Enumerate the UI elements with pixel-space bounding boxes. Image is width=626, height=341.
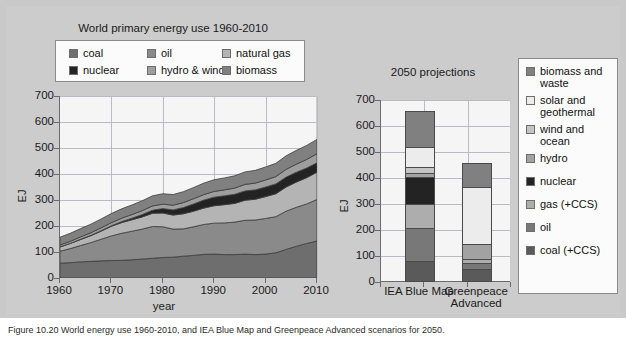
right-chart-plot-area [380,100,510,282]
y-tick [54,122,59,123]
left-chart-legend: coal oil natural gas nuclear hydro & win… [55,40,305,82]
figure-caption: Figure 10.20 World energy use 1960-2010,… [8,325,618,336]
y-tick [54,148,59,149]
figure-panel: World primary energy use 1960-2010 coal … [0,0,626,318]
gas-ccs-swatch-icon [526,200,535,209]
x-tick-label: 1990 [189,284,237,296]
x-tick [213,278,214,283]
legend-label: oil [540,222,551,234]
right-chart: 2050 projections EJ 01002003004005006007… [338,14,620,314]
legend-item-wind-and-ocean[interactable]: wind and ocean [526,124,618,147]
y-tick-label: 700 [22,89,54,101]
y-tick-label: 400 [343,171,375,183]
legend-label: coal (+CCS) [540,245,600,257]
bar-segment-divider [462,187,492,188]
legend-item-biomass[interactable]: biomass [222,65,277,77]
legend-label: coal [83,48,103,60]
hydro-swatch-icon [526,154,535,163]
bar-segment-hydro [462,244,492,258]
bar-segment-divider [405,204,435,205]
coal-ccs-swatch-icon [526,246,535,255]
legend-item-solar-and-geothermal[interactable]: solar and geothermal [526,95,618,118]
x-tick [110,278,111,283]
legend-item-oil[interactable]: oil [147,48,172,60]
legend-item-nuclear[interactable]: nuclear [69,65,119,77]
nuclear-swatch-icon [526,177,535,186]
y-tick-label: 500 [22,141,54,153]
x-tick-label: 2010 [292,284,340,296]
legend-label: wind and ocean [540,124,584,147]
y-tick [54,96,59,97]
solar-and-geothermal-swatch-icon [526,96,535,105]
left-chart-title: World primary energy use 1960-2010 [14,22,332,34]
legend-label: natural gas [236,48,290,60]
x-tick-label: Greenpeace Advanced [436,285,516,309]
bar-segment-divider [405,228,435,229]
nuclear-swatch-icon [69,66,78,75]
hydro-wind-swatch-icon [147,66,156,75]
bar-segment-biomass-and-waste [405,111,435,147]
y-tick-label: 0 [22,271,54,283]
right-chart-title: 2050 projections [348,66,518,78]
legend-label: biomass [236,65,277,77]
x-tick [423,282,424,287]
legend-item-gas-ccs[interactable]: gas (+CCS) [526,199,618,211]
y-tick-label: 600 [343,119,375,131]
biomass-and-waste-swatch-icon [526,67,535,76]
y-tick-label: 700 [343,93,375,105]
wind-and-ocean-swatch-icon [526,125,535,134]
y-tick [375,100,380,101]
x-tick [265,278,266,283]
bar-segment-divider [462,263,492,264]
bar-segment-divider [405,173,435,174]
y-tick [375,178,380,179]
x-tick [59,278,60,283]
legend-item-hydro[interactable]: hydro [526,153,618,165]
legend-item-nuclear[interactable]: nuclear [526,176,618,188]
legend-item-biomass-and-waste[interactable]: biomass and waste [526,66,618,89]
y-tick [54,252,59,253]
legend-item-natural-gas[interactable]: natural gas [222,48,290,60]
bar-segment-nuclear [405,177,435,204]
legend-label: biomass and waste [540,66,602,89]
y-tick [54,200,59,201]
legend-item-hydro-wind[interactable]: hydro & wind [147,65,225,77]
gridline-v [317,96,318,277]
y-tick [375,126,380,127]
y-tick-label: 600 [22,115,54,127]
y-tick-label: 100 [22,245,54,257]
oil-swatch-icon [526,223,535,232]
legend-label: solar and geothermal [540,95,595,118]
x-tick [316,278,317,283]
legend-label: nuclear [540,176,576,188]
legend-item-coal-ccs[interactable]: coal (+CCS) [526,245,618,257]
bar-segment-gas-ccs- [405,204,435,228]
legend-item-oil[interactable]: oil [526,222,618,234]
y-tick [54,226,59,227]
bar-segment-biomass-and-waste [462,163,492,187]
gridline-h [381,152,510,153]
left-chart: World primary energy use 1960-2010 coal … [14,14,334,314]
bar-segment-divider [405,167,435,168]
y-tick [375,152,380,153]
y-tick-label: 400 [22,167,54,179]
y-tick [54,174,59,175]
left-chart-x-axis-label: year [14,300,314,312]
bar-segment-coal-ccs- [462,269,492,282]
bar-segment-divider [462,259,492,260]
legend-item-coal[interactable]: coal [69,48,103,60]
bar-segment-solar-and-geothermal [462,187,492,244]
y-tick [375,230,380,231]
y-tick-label: 300 [343,197,375,209]
bar-segment-divider [462,244,492,245]
x-tick-label: 1960 [35,284,83,296]
gridline-h [381,126,510,127]
y-tick-label: 100 [343,249,375,261]
oil-swatch-icon [147,49,156,58]
y-tick-label: 200 [343,223,375,235]
bar-segment-coal-ccs- [405,261,435,282]
legend-label: hydro [540,153,568,165]
natural-gas-swatch-icon [222,49,231,58]
y-tick-label: 0 [343,275,375,287]
x-tick-label: 2000 [241,284,289,296]
